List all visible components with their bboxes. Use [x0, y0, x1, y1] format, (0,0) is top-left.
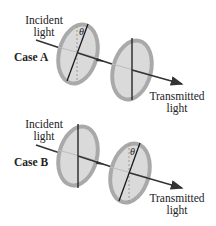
case-a-title: Case A — [14, 51, 48, 63]
case-a-theta-label: θ — [79, 26, 84, 37]
case-a-transmitted-label: Transmitted light — [146, 90, 208, 114]
case-a-incident-label: Incident light — [20, 14, 68, 38]
case-b-transmitted-label: Transmitted light — [146, 192, 208, 216]
case-b-theta-label: θ — [130, 146, 135, 157]
polarizer-diagram: θ θ Incident — [0, 0, 216, 226]
case-b-incident-label: Incident light — [20, 118, 68, 142]
case-a-incident-beam — [36, 40, 60, 48]
case-b-title: Case B — [14, 156, 48, 168]
case-b-incident-beam — [36, 145, 60, 153]
